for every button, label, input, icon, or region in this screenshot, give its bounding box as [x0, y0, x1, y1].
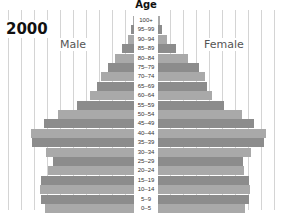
gridline: [21, 10, 22, 210]
male-bar: [41, 195, 134, 204]
age-group-label: 80–84: [134, 54, 158, 63]
age-group-label: 55–59: [134, 101, 158, 110]
female-bar: [158, 110, 242, 119]
gridline: [261, 10, 262, 210]
age-group-label: 50–54: [134, 110, 158, 119]
female-bar: [158, 82, 207, 91]
female-bar: [158, 138, 264, 147]
male-bar: [40, 185, 134, 194]
male-bar: [41, 176, 134, 185]
year-title: 2000: [4, 20, 50, 38]
male-bar: [90, 91, 134, 100]
male-bar: [46, 148, 134, 157]
male-bar: [31, 129, 134, 138]
age-group-label: 25–29: [134, 157, 158, 166]
age-group-label: 35–39: [134, 138, 158, 147]
female-bar: [158, 44, 176, 53]
age-group-label: 20–24: [134, 166, 158, 175]
male-bar: [45, 204, 134, 213]
female-bar: [158, 63, 199, 72]
age-axis-title: Age: [130, 0, 162, 10]
female-bar: [158, 35, 167, 44]
age-group-label: 15–19: [134, 176, 158, 185]
male-bar: [101, 72, 134, 81]
age-group-label: 10–14: [134, 185, 158, 194]
population-pyramid-chart: 100+95–9990–9485–8980–8475–7970–7465–696…: [0, 0, 287, 220]
male-bar: [48, 166, 134, 175]
gridline: [34, 10, 35, 210]
female-bar: [158, 148, 251, 157]
male-bar: [97, 82, 134, 91]
gridline: [8, 10, 9, 210]
age-group-label: 5–9: [134, 195, 158, 204]
male-bar: [77, 101, 134, 110]
female-bar: [158, 119, 254, 128]
female-bar: [158, 91, 212, 100]
female-bar: [158, 195, 249, 204]
age-group-label: 30–34: [134, 148, 158, 157]
male-bar: [108, 63, 134, 72]
gridline: [274, 10, 275, 210]
female-bar: [158, 72, 205, 81]
female-bar: [158, 54, 188, 63]
female-bar: [158, 185, 250, 194]
female-bar: [158, 204, 245, 213]
male-bar: [58, 110, 134, 119]
age-group-label: 100+: [134, 16, 158, 25]
age-group-label: 95–99: [134, 25, 158, 34]
male-bar: [53, 157, 134, 166]
female-bar: [158, 25, 162, 34]
age-group-label: 60–64: [134, 91, 158, 100]
age-group-label: 75–79: [134, 63, 158, 72]
age-group-label: 85–89: [134, 44, 158, 53]
age-group-label: 0–5: [134, 204, 158, 213]
age-group-label: 65–69: [134, 82, 158, 91]
female-bar: [158, 166, 244, 175]
male-bar: [44, 119, 134, 128]
male-bar: [115, 54, 134, 63]
female-label: Female: [202, 38, 246, 51]
age-group-label: 90–94: [134, 35, 158, 44]
female-bar: [158, 176, 249, 185]
age-group-label: 40–44: [134, 129, 158, 138]
female-bar: [158, 101, 224, 110]
female-bar: [158, 129, 266, 138]
age-group-label: 45–49: [134, 119, 158, 128]
male-bar: [122, 44, 134, 53]
male-bar: [32, 138, 134, 147]
male-label: Male: [58, 38, 88, 51]
age-group-label: 70–74: [134, 72, 158, 81]
female-bar: [158, 16, 160, 25]
female-bar: [158, 157, 243, 166]
